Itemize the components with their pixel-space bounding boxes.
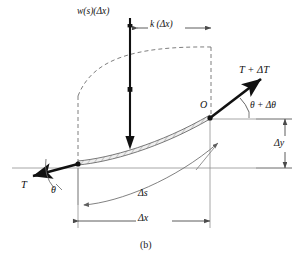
angle-right-arc [240, 98, 249, 112]
angle-left-leader [56, 184, 62, 190]
tension-left-label: T [21, 180, 27, 191]
dashed-curve [78, 47, 211, 96]
delta-y-label: Δy [274, 138, 284, 148]
load-arrow-head [125, 136, 134, 150]
figure-caption: (b) [140, 240, 152, 250]
angle-right-label: θ + Δθ [250, 101, 276, 111]
tension-left-arrow [33, 164, 78, 176]
delta-s-dimension [84, 143, 218, 205]
distributed-load-arrow [125, 18, 134, 150]
load-arrow-top-tick [128, 24, 133, 27]
point-o-label: O [200, 100, 207, 110]
arc-length-label: Δs [138, 188, 148, 198]
cable-element-free-body-diagram [0, 0, 305, 264]
angle-left-label: θ [51, 185, 56, 195]
tension-right-shaft [210, 79, 261, 118]
delta-s-leader-line [196, 148, 214, 170]
delta-x-label: Δx [138, 213, 148, 223]
load-arrow-midpoint-tick [128, 87, 133, 92]
tension-right-arrow [210, 79, 261, 118]
delta-s-arc [84, 143, 218, 205]
spring-load-label: k (Δx) [150, 20, 173, 30]
cable-band [78, 115, 210, 165]
tension-left-shaft [33, 164, 78, 176]
tension-right-label: T + ΔT [239, 65, 269, 76]
construction-lines [12, 119, 292, 228]
distributed-load-label: w(s)(Δx) [77, 7, 109, 17]
cable-element [78, 115, 210, 165]
